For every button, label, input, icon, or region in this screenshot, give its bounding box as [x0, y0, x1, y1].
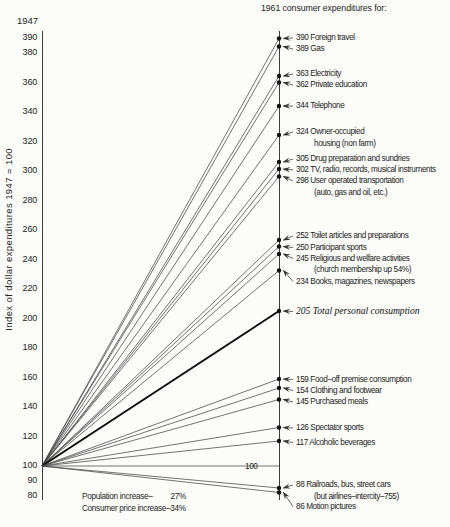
data-point-dot: [277, 167, 281, 171]
tick-label: 160: [23, 372, 38, 382]
expenditure-label: 245 Religious and welfare activities: [296, 254, 410, 263]
data-point-dot: [277, 36, 281, 40]
axes: [42, 31, 279, 500]
callout-arrow: [284, 254, 294, 259]
expenditure-line: [42, 441, 279, 466]
callout-arrow: [284, 311, 294, 312]
data-point-dot: [277, 386, 281, 390]
data-point-dot: [277, 377, 281, 381]
callout-arrow: [284, 47, 294, 50]
tick-label: 320: [23, 136, 38, 146]
expenditure-label-line2: (but airlines–intercity–755): [314, 492, 399, 501]
expenditure-label: 100: [245, 462, 258, 471]
callout-arrow: [284, 83, 294, 86]
expenditure-line: [42, 47, 279, 467]
expenditure-label: 250 Participant sports: [296, 243, 367, 252]
data-point-dot: [277, 44, 281, 48]
callout-arrow: [284, 271, 294, 282]
tick-label: 260: [23, 224, 38, 234]
callout-arrow: [284, 400, 294, 403]
expenditure-line: [42, 311, 279, 466]
callout-arrow: [284, 74, 294, 76]
data-point-dot: [277, 309, 281, 313]
expenditure-label: 363 Electricity: [296, 69, 342, 78]
tick-label: 80: [27, 490, 37, 500]
fan-chart-plot: 3903803603403203002802602402202001801601…: [0, 0, 450, 527]
callout-arrow: [284, 247, 294, 248]
expenditure-line: [42, 135, 279, 466]
expenditure-label: 126 Spectator sports: [296, 423, 364, 432]
callout-arrow: [284, 428, 294, 429]
tick-label: 120: [23, 431, 38, 441]
data-point-dot: [277, 425, 281, 429]
data-point-dot: [277, 490, 281, 494]
expenditure-label: 298 User operated transportation: [296, 176, 404, 185]
tick-label: 220: [23, 283, 38, 293]
tick-label: 390: [23, 32, 38, 42]
data-point-dot: [277, 74, 281, 78]
tick-label: 300: [23, 165, 38, 175]
expenditure-label: 305 Drug preparation and sundries: [296, 154, 410, 163]
expenditure-label-line2: housing (non farm): [314, 139, 376, 148]
expenditure-label: 205 Total personal consumption: [296, 305, 420, 316]
data-point-dot: [277, 174, 281, 178]
expenditure-label: 344 Telephone: [296, 101, 345, 110]
expenditure-label: 252 Toilet articles and preparations: [296, 231, 409, 240]
y-axis-ticks: 3903803603403203002802602402202001801601…: [23, 32, 38, 500]
tick-label: 280: [23, 195, 38, 205]
data-point-dot: [277, 160, 281, 164]
callout-arrow: [284, 132, 294, 135]
tick-label: 360: [23, 77, 38, 87]
data-point-dot: [277, 133, 281, 137]
tick-label: 240: [23, 254, 38, 264]
expenditure-label: 362 Private education: [296, 80, 368, 89]
data-point-dot: [277, 439, 281, 443]
expenditure-label: 159 Food–off premise consumption: [296, 375, 412, 384]
callout-arrow: [284, 159, 294, 162]
tick-label: 340: [23, 106, 38, 116]
callout-arrow: [284, 177, 294, 182]
expenditure-line: [42, 169, 279, 466]
expenditure-label: 389 Gas: [296, 44, 324, 53]
callout-arrow: [284, 485, 294, 488]
expenditure-label: 234 Books, magazines, newspapers: [296, 277, 415, 286]
callout-arrow: [284, 38, 294, 39]
expenditure-label: 117 Alcoholic beverages: [296, 438, 375, 447]
tick-label: 140: [23, 401, 38, 411]
data-point-dot: [277, 244, 281, 248]
expenditure-label: 324 Owner-occupied: [296, 127, 365, 136]
expenditure-label: 154 Clothing and footwear: [296, 386, 382, 395]
expenditure-line: [42, 39, 279, 467]
fan-lines: [42, 39, 279, 493]
expenditure-line: [42, 162, 279, 466]
callout-labels: 390 Foreign travel389 Gas363 Electricity…: [245, 33, 436, 511]
callout-arrow: [284, 169, 294, 170]
callout-arrow: [284, 388, 294, 391]
callout-arrow: [284, 441, 294, 443]
tick-label: 90: [27, 475, 37, 485]
callout-arrow: [284, 379, 294, 380]
data-point-dot: [277, 397, 281, 401]
tick-label: 100: [23, 460, 38, 470]
data-point-dot: [277, 104, 281, 108]
expenditure-label: 145 Purchased meals: [296, 397, 368, 406]
tick-label: 380: [23, 47, 38, 57]
tick-label: 200: [23, 313, 38, 323]
data-point-dot: [277, 252, 281, 256]
data-point-dot: [277, 486, 281, 490]
price-increase-label: Consumer price increase–34%: [82, 503, 186, 515]
expenditure-label-line2: (church membership up 54%): [314, 265, 412, 274]
callout-arrow: [284, 236, 294, 240]
expenditure-line: [42, 76, 279, 466]
population-increase-value: 27%: [171, 491, 187, 503]
chart-canvas: 1947 1961 consumer expenditures for: Ind…: [0, 0, 450, 527]
expenditure-label: 302 TV, radio, records, musical instrume…: [296, 165, 436, 174]
expenditure-label: 390 Foreign travel: [296, 33, 355, 42]
population-increase-label: Population increase–: [82, 491, 152, 503]
data-point-dot: [277, 268, 281, 272]
expenditure-line: [42, 466, 279, 493]
expenditure-line: [42, 388, 279, 466]
expenditure-line: [42, 271, 279, 467]
data-point-dot: [277, 238, 281, 242]
increase-annotations: Population increase– 27% Consumer price …: [82, 491, 186, 514]
